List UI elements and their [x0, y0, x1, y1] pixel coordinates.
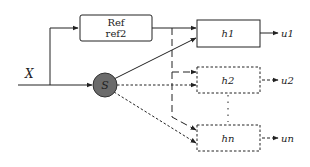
ref-block: Ref ref2: [80, 15, 152, 41]
block-h1: h1 u1: [197, 20, 294, 47]
ref-label-line2: ref2: [106, 28, 127, 39]
output-un: un: [281, 133, 294, 144]
output-u2: u2: [281, 75, 294, 86]
block-h2: h2 u2: [197, 67, 294, 93]
block-h2-label: h2: [222, 75, 235, 86]
selector-to-h1-line: [114, 38, 196, 79]
ref-control-dashed-line: [172, 28, 196, 130]
ref-label-line1: Ref: [107, 17, 125, 28]
block-hn-label: hn: [222, 133, 235, 144]
block-diagram: X Ref ref2 S h1 u1 h2: [0, 0, 310, 167]
block-h1-label: h1: [222, 28, 235, 39]
branch-to-ref: [50, 28, 78, 85]
selector-label: S: [101, 79, 109, 92]
selector-node: S: [93, 73, 117, 97]
input-label: X: [24, 67, 34, 81]
selector-to-hn-line: [114, 92, 196, 143]
block-hn: hn un: [197, 125, 294, 151]
output-u1: u1: [281, 28, 294, 39]
